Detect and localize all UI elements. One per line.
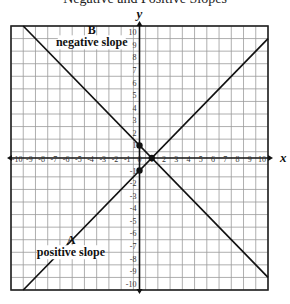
y-tick-label: -9 (130, 267, 137, 276)
x-tick-label: 6 (211, 155, 215, 164)
x-tick-label: 5 (199, 155, 203, 164)
x-axis-label: x (279, 150, 287, 165)
annotation-text: negative slope (56, 35, 128, 49)
x-tick-label: -4 (87, 155, 94, 164)
x-tick-label: 0 (138, 155, 142, 164)
coordinate-plane: xy -10-9-8-7-6-5-4-3-2-1012345678910-10-… (0, 0, 290, 304)
y-tick-label: -7 (130, 242, 137, 251)
y-tick-label: -4 (130, 204, 137, 213)
y-tick-label: -8 (130, 255, 137, 264)
annotations: Bnegative slopeApositive slope (37, 23, 128, 259)
y-tick-label: 4 (133, 104, 137, 113)
x-tick-label: -1 (124, 155, 131, 164)
y-tick-label: 10 (129, 28, 137, 37)
annotation-text: positive slope (37, 245, 106, 259)
y-tick-label: 3 (133, 116, 137, 125)
x-tick-label: 8 (235, 155, 239, 164)
x-tick-label: 2 (162, 155, 166, 164)
x-tick-label: 9 (248, 155, 252, 164)
x-tick-label: 4 (186, 155, 190, 164)
y-tick-label: 9 (133, 41, 137, 50)
y-axis-label: y (135, 6, 143, 21)
y-tick-label: 8 (133, 53, 137, 62)
x-tick-label: 3 (174, 155, 178, 164)
x-tick-label: -10 (12, 155, 23, 164)
x-tick-label: 7 (223, 155, 227, 164)
x-tick-label: -9 (26, 155, 33, 164)
y-tick-label: -3 (130, 192, 137, 201)
x-tick-label: -6 (63, 155, 70, 164)
y-tick-label: -6 (130, 229, 137, 238)
x-tick-label: -3 (99, 155, 106, 164)
data-point (149, 155, 155, 161)
x-tick-label: -5 (75, 155, 82, 164)
x-tick-label: -2 (112, 155, 119, 164)
data-point (136, 142, 142, 148)
x-tick-label: -8 (38, 155, 45, 164)
x-tick-label: -7 (50, 155, 57, 164)
y-tick-label: 7 (133, 66, 137, 75)
y-tick-label: 2 (133, 129, 137, 138)
y-tick-label: 5 (133, 91, 137, 100)
y-tick-label: 6 (133, 79, 137, 88)
x-tick-label: 10 (258, 155, 266, 164)
y-tick-label: -10 (126, 280, 137, 289)
y-tick-label: -5 (130, 217, 137, 226)
data-point (136, 167, 142, 173)
